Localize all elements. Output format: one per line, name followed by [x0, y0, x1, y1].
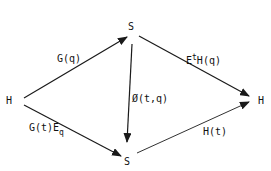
edge-label-g-t-e-main: G(t)E — [29, 122, 59, 133]
node-h-left: H — [6, 96, 12, 106]
edge-label-h-q: H(q) — [197, 55, 221, 66]
edge-label-g-q: G(q) — [57, 54, 81, 64]
node-s-bottom: S — [124, 157, 130, 167]
arrow-h-to-s-top — [24, 37, 127, 98]
commutative-diagram — [0, 0, 271, 171]
edge-label-t-superscript: t — [192, 53, 197, 62]
node-s-top: S — [128, 22, 134, 32]
edge-label-phi-t-q: Ø(t,q) — [132, 94, 168, 104]
node-h-right: H — [258, 96, 264, 106]
edge-label-e-t-h-q: EtH(q) — [186, 56, 221, 66]
edge-label-g-t-e-q: G(t)Eq — [29, 123, 64, 133]
edge-label-q-subscript: q — [59, 128, 64, 137]
arrow-s-top-to-h-right — [139, 36, 249, 96]
edge-label-h-t: H(t) — [203, 127, 227, 137]
arrow-s-bottom-to-h-right — [137, 102, 249, 153]
